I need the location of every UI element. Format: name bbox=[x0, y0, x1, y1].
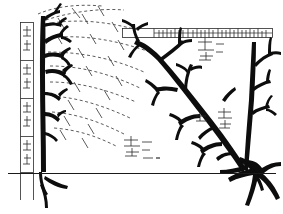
diagram-canvas bbox=[0, 0, 283, 214]
figure-root: Comparative branching diagram of two arb… bbox=[0, 0, 283, 214]
